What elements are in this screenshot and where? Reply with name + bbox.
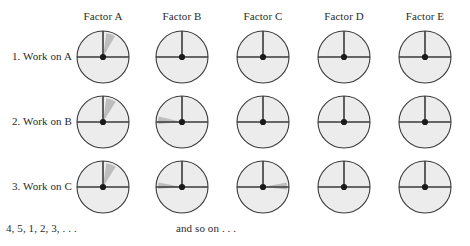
row-label-row-2: 2. Work on B (0, 115, 72, 127)
row-label-row-1: 1. Work on A (0, 50, 72, 62)
dial-hub (260, 184, 266, 190)
dial-row2-factor-e (397, 94, 453, 150)
dial-row1-factor-e (397, 29, 453, 85)
dial-hub (100, 119, 106, 125)
dial-row3-factor-a (75, 159, 131, 215)
column-header-factor-e: Factor E (365, 10, 470, 22)
dial-hub (422, 119, 428, 125)
dial-hub (179, 184, 185, 190)
dial-row2-factor-d (316, 94, 372, 150)
dial-row3-factor-d (316, 159, 372, 215)
dial-row3-factor-b (154, 159, 210, 215)
clock-grid-figure: Factor AFactor BFactor CFactor DFactor E… (0, 0, 470, 246)
dial-hub (422, 54, 428, 60)
dial-hub (100, 54, 106, 60)
dial-hub (422, 184, 428, 190)
dial-hub (260, 54, 266, 60)
dial-row1-factor-a (75, 29, 131, 85)
dial-row3-factor-e (397, 159, 453, 215)
dial-row1-factor-d (316, 29, 372, 85)
dial-hub (100, 184, 106, 190)
dial-row2-factor-a (75, 94, 131, 150)
dial-hub (341, 119, 347, 125)
row-label-row-3: 3. Work on C (0, 180, 72, 192)
sequence-continuation-note: 4, 5, 1, 2, 3, . . . (6, 222, 77, 234)
dial-hub (179, 119, 185, 125)
dial-row2-factor-b (154, 94, 210, 150)
dial-hub (179, 54, 185, 60)
dial-row1-factor-b (154, 29, 210, 85)
dial-hub (260, 119, 266, 125)
and-so-on-note: and so on . . . (176, 222, 236, 234)
dial-hub (341, 54, 347, 60)
dial-row2-factor-c (235, 94, 291, 150)
dial-row3-factor-c (235, 159, 291, 215)
dial-row1-factor-c (235, 29, 291, 85)
dial-hub (341, 184, 347, 190)
